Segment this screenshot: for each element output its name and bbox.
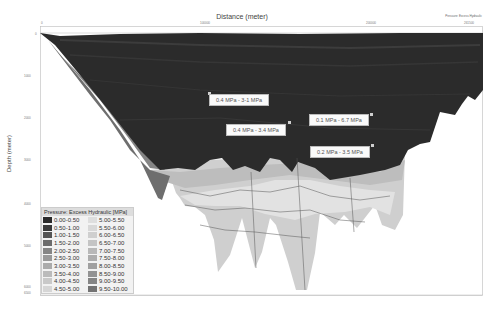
legend-swatch: [43, 232, 52, 238]
legend-swatch: [43, 225, 52, 231]
legend-swatch: [88, 271, 97, 277]
legend-column-right: 5.00-5.50 5.50-6.00 6.00-6.50 6.50-7.00 …: [87, 216, 132, 293]
legend-item: 9.50-10.00: [87, 285, 132, 293]
annotation-marker-3: [370, 113, 373, 116]
legend-item: 5.50-6.00: [87, 224, 132, 232]
pressure-legend: Pressure: Excess Hydraulic [MPa] 0.00-0.…: [41, 207, 134, 294]
annotation-marker-2: [288, 121, 291, 124]
legend-swatch: [88, 248, 97, 254]
legend-item: 3.00-3.50: [42, 262, 87, 270]
legend-item: 4.50-5.00: [42, 285, 87, 293]
legend-item: 3.50-4.00: [42, 270, 87, 278]
legend-item: 7.00-7.50: [87, 247, 132, 255]
legend-swatch: [88, 255, 97, 261]
legend-item: 7.50-8.00: [87, 254, 132, 262]
legend-swatch: [88, 232, 97, 238]
legend-item: 6.50-7.00: [87, 239, 132, 247]
legend-title: Pressure: Excess Hydraulic [MPa]: [42, 208, 133, 216]
legend-swatch: [43, 278, 52, 284]
legend-swatch: [43, 248, 52, 254]
annotation-callout-2: 0.4 MPa - 3.4 MPa: [226, 124, 286, 136]
annotation-callout-4: 0.2 MPa - 3.5 MPa: [310, 146, 370, 158]
legend-swatch: [88, 240, 97, 246]
legend-item: 5.00-5.50: [87, 216, 132, 224]
legend-swatch: [88, 263, 97, 269]
legend-swatch: [43, 240, 52, 246]
legend-column-left: 0.00-0.50 0.50-1.00 1.00-1.50 1.50-2.00 …: [42, 216, 87, 293]
legend-swatch: [43, 286, 52, 292]
legend-item: 0.50-1.00: [42, 224, 87, 232]
legend-item: 1.50-2.00: [42, 239, 87, 247]
legend-item: 0.00-0.50: [42, 216, 87, 224]
legend-item: 2.50-3.00: [42, 254, 87, 262]
legend-item: 8.00-8.50: [87, 262, 132, 270]
legend-swatch: [88, 286, 97, 292]
legend-swatch: [88, 225, 97, 231]
legend-item: 9.00-9.50: [87, 278, 132, 286]
legend-item: 6.00-6.50: [87, 231, 132, 239]
legend-item: 1.00-1.50: [42, 231, 87, 239]
legend-swatch: [43, 263, 52, 269]
legend-swatch: [88, 278, 97, 284]
annotation-callout-1: 0.4 MPa - 3-1 MPa: [209, 94, 269, 106]
legend-swatch: [43, 271, 52, 277]
legend-item: 2.00-2.50: [42, 247, 87, 255]
legend-swatch: [43, 217, 52, 223]
annotation-marker-4: [371, 144, 374, 147]
legend-item: 8.50-9.00: [87, 270, 132, 278]
annotation-callout-3: 0.1 MPa - 6.7 MPa: [309, 114, 369, 126]
legend-swatch: [43, 255, 52, 261]
legend-swatch: [88, 217, 97, 223]
legend-item: 4.00-4.50: [42, 278, 87, 286]
